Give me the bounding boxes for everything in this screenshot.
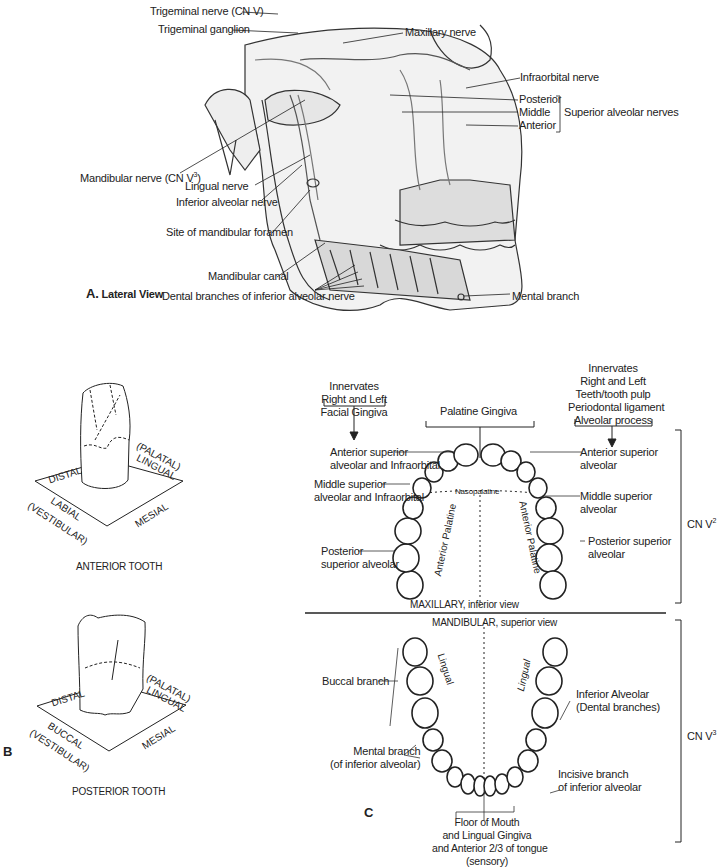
label-cn-v2: CN V2 bbox=[687, 514, 716, 531]
label-mandibular-view: MANDIBULAR, superior view bbox=[432, 616, 557, 629]
panel-a-title: A. Lateral View bbox=[86, 287, 163, 301]
label-mental-branch: Mental branch bbox=[512, 290, 579, 303]
label-middle: Middle bbox=[519, 106, 550, 119]
label-psa-right: Posterior superior alveolar bbox=[588, 535, 671, 561]
label-mental-branch-c: Mental branch (of inferior alveolar) bbox=[330, 745, 420, 771]
label-msa-infraorbital: Middle superior alveolar and Infraorbita… bbox=[314, 478, 424, 504]
label-psa-left: Posterior superior alveolar bbox=[321, 545, 399, 571]
label-maxillary-nerve: Maxillary nerve bbox=[405, 26, 476, 39]
label-dental-branches: Dental branches of inferior alveolar ner… bbox=[162, 290, 355, 303]
label-incisive-branch: Incisive branch of inferior alveolar bbox=[558, 768, 641, 794]
caption-posterior-tooth: POSTERIOR TOOTH bbox=[72, 785, 165, 798]
label-inferior-alveolar-nerve: Inferior alveolar nerve bbox=[176, 196, 278, 209]
panel-c-letter: C bbox=[364, 806, 373, 819]
label-asa-right: Anterior superior alveolar bbox=[580, 446, 658, 472]
label-cn-v3: CN V3 bbox=[687, 726, 716, 743]
label-superior-alveolar-nerves: Superior alveolar nerves bbox=[564, 106, 678, 119]
label-mandibular-nerve: Mandibular nerve (CN V3) bbox=[80, 168, 201, 185]
label-trigeminal-ganglion: Trigeminal ganglion bbox=[158, 23, 250, 36]
label-infraorbital-nerve: Infraorbital nerve bbox=[520, 71, 599, 84]
label-palatine-gingiva: Palatine Gingiva bbox=[440, 405, 517, 418]
label-inferior-alveolar-dental: Inferior Alveolar (Dental branches) bbox=[576, 688, 660, 714]
label-lingual-nerve: Lingual nerve bbox=[185, 180, 248, 193]
label-posterior: Posterior bbox=[519, 93, 561, 106]
panel-b-letter: B bbox=[3, 745, 12, 758]
label-msa-right: Middle superior alveolar bbox=[580, 490, 652, 516]
label-nasopalatine: Nasopalatine bbox=[455, 485, 499, 498]
label-asa-infraorbital: Anterior superior alveolar and Infraorbi… bbox=[330, 446, 440, 472]
label-maxillary-view: MAXILLARY, inferior view bbox=[410, 598, 519, 611]
label-mandibular-canal: Mandibular canal bbox=[208, 270, 289, 283]
label-innervates-left: Innervates Right and Left Facial Gingiva bbox=[318, 380, 390, 419]
label-buccal-branch: Buccal branch bbox=[322, 675, 389, 688]
label-anterior: Anterior bbox=[519, 119, 556, 132]
label-innervates-right: Innervates Right and Left Teeth/tooth pu… bbox=[568, 362, 658, 427]
label-site-mandibular-foramen: Site of mandibular foramen bbox=[166, 226, 293, 239]
label-floor-of-mouth: Floor of Mouth and Lingual Gingiva and A… bbox=[432, 816, 542, 868]
caption-anterior-tooth: ANTERIOR TOOTH bbox=[76, 560, 162, 573]
label-trigeminal-nerve: Trigeminal nerve (CN V) bbox=[150, 5, 264, 18]
